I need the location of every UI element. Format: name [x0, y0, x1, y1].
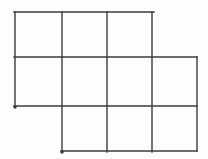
- bottom-edge-start-dot: [60, 150, 63, 153]
- polyomino-grid-figure: [0, 0, 208, 159]
- left-edge-end-dot: [13, 105, 16, 108]
- diagram-canvas: [0, 0, 208, 159]
